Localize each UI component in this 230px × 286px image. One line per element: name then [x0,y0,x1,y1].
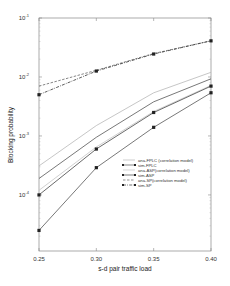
data-point-marker [152,126,155,129]
series-line-6 [39,79,211,179]
data-point-marker [95,147,98,150]
data-point-marker [95,166,98,169]
data-point-marker [37,193,40,196]
data-point-marker [209,91,212,94]
x-tick-label: 0.35 [148,256,160,262]
legend-marker [122,164,124,166]
x-tick-label: 0.25 [33,256,45,262]
data-point-marker [209,39,212,42]
blocking-probability-chart: 10-110-210-310-4 0.250.300.350.40 s-d pa… [0,0,230,286]
data-point-marker [95,69,98,72]
plot-frame [39,18,211,251]
y-tick-label: 10-1 [19,13,30,21]
data-point-marker [37,93,40,96]
y-tick-label: 10-4 [19,190,30,198]
legend-marker [134,164,136,166]
legend-marker [134,174,136,176]
y-axis-label: Blocking probability [7,106,15,163]
x-tick-label: 0.40 [205,256,217,262]
series-line-4 [39,41,211,86]
data-point-marker [209,85,212,88]
legend: ana-FPLC (correlation model)sim-FPLCana-… [122,158,194,188]
y-tick-label: 10-2 [19,72,30,80]
data-point-marker [37,229,40,232]
data-point-marker [152,52,155,55]
series-line-5 [39,41,211,95]
data-point-marker [152,111,155,114]
legend-entry: sim-SP [138,183,152,188]
legend-marker [122,174,124,176]
y-tick-label: 10-3 [19,131,30,139]
legend-marker [134,184,136,186]
x-tick-label: 0.30 [90,256,102,262]
legend-marker [122,184,124,186]
x-axis-label: s-d pair traffic load [98,265,152,273]
